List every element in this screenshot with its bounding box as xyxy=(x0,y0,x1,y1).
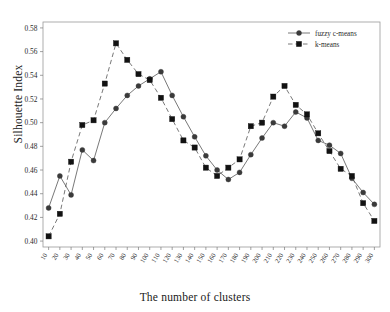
x-tick-label: 220 xyxy=(273,251,285,264)
data-point-k-means xyxy=(215,173,220,178)
x-tick-label: 10 xyxy=(39,251,49,261)
data-point-k-means xyxy=(293,102,298,107)
data-point-fuzzy-c-means xyxy=(372,202,377,207)
x-tick-label: 140 xyxy=(183,251,195,264)
data-point-fuzzy-c-means xyxy=(91,158,96,163)
data-point-k-means xyxy=(248,124,253,129)
data-point-k-means xyxy=(327,148,332,153)
data-point-fuzzy-c-means xyxy=(170,93,175,98)
y-tick-label: 0.46 xyxy=(25,166,38,175)
data-point-fuzzy-c-means xyxy=(361,190,366,195)
data-point-k-means xyxy=(237,157,242,162)
data-point-fuzzy-c-means xyxy=(125,93,130,98)
data-point-fuzzy-c-means xyxy=(57,173,62,178)
x-tick-label: 230 xyxy=(284,251,296,264)
data-point-k-means xyxy=(136,72,141,77)
x-tick-label: 170 xyxy=(217,251,229,264)
x-tick-label: 50 xyxy=(84,251,94,261)
y-tick-label: 0.42 xyxy=(25,213,38,222)
data-point-k-means xyxy=(57,211,62,216)
data-point-k-means xyxy=(361,201,366,206)
x-tick-label: 120 xyxy=(161,251,173,264)
y-axis-title: Silhouette Index xyxy=(12,34,24,174)
y-tick-label: 0.58 xyxy=(25,24,38,33)
data-point-fuzzy-c-means xyxy=(338,151,343,156)
data-point-k-means xyxy=(192,145,197,150)
y-tick-label: 0.48 xyxy=(25,142,38,151)
data-point-k-means xyxy=(68,159,73,164)
x-tick-label: 80 xyxy=(118,251,128,261)
data-point-k-means xyxy=(226,165,231,170)
x-tick-label: 90 xyxy=(129,251,139,261)
data-point-k-means xyxy=(271,94,276,99)
y-tick-label: 0.44 xyxy=(25,189,38,198)
data-point-k-means xyxy=(158,95,163,100)
x-tick-label: 250 xyxy=(307,251,319,264)
x-tick-label: 210 xyxy=(262,251,274,264)
data-point-fuzzy-c-means xyxy=(327,143,332,148)
y-tick-label: 0.40 xyxy=(25,237,38,246)
x-tick-label: 190 xyxy=(239,251,251,264)
x-tick-label: 100 xyxy=(138,251,150,264)
data-point-fuzzy-c-means xyxy=(158,69,163,74)
data-point-k-means xyxy=(349,173,354,178)
data-point-k-means xyxy=(316,131,321,136)
x-tick-label: 270 xyxy=(329,251,341,264)
data-point-k-means xyxy=(304,112,309,117)
y-tick-label: 0.50 xyxy=(25,118,38,127)
y-tick-label: 0.52 xyxy=(25,95,38,104)
x-tick-label: 200 xyxy=(251,251,263,264)
data-point-fuzzy-c-means xyxy=(114,106,119,111)
data-point-k-means xyxy=(102,81,107,86)
x-tick-label: 110 xyxy=(150,251,161,263)
data-point-fuzzy-c-means xyxy=(192,134,197,139)
x-tick-label: 20 xyxy=(50,251,60,261)
data-point-k-means xyxy=(181,138,186,143)
y-tick-label: 0.56 xyxy=(25,47,38,56)
data-point-fuzzy-c-means xyxy=(293,110,298,115)
x-tick-label: 30 xyxy=(62,251,72,261)
x-tick-label: 130 xyxy=(172,251,184,264)
data-point-k-means xyxy=(46,234,51,239)
x-tick-label: 150 xyxy=(195,251,207,264)
data-point-fuzzy-c-means xyxy=(102,120,107,125)
data-point-k-means xyxy=(372,218,377,223)
legend-label-0: fuzzy c-means xyxy=(315,30,357,38)
data-point-k-means xyxy=(170,117,175,122)
data-point-fuzzy-c-means xyxy=(316,138,321,143)
data-point-k-means xyxy=(338,166,343,171)
data-point-k-means xyxy=(259,120,264,125)
series-line-k-means xyxy=(49,43,375,236)
data-point-k-means xyxy=(91,118,96,123)
data-point-k-means xyxy=(125,57,130,62)
data-point-fuzzy-c-means xyxy=(237,170,242,175)
data-point-fuzzy-c-means xyxy=(248,152,253,157)
data-point-fuzzy-c-means xyxy=(181,114,186,119)
data-point-fuzzy-c-means xyxy=(271,120,276,125)
x-tick-label: 60 xyxy=(95,251,105,261)
data-point-fuzzy-c-means xyxy=(215,168,220,173)
data-point-fuzzy-c-means xyxy=(226,177,231,182)
legend-label-1: k-means xyxy=(315,41,340,49)
data-point-fuzzy-c-means xyxy=(80,147,85,152)
x-axis-title: The number of clusters xyxy=(0,291,390,303)
plot-frame xyxy=(43,22,380,247)
x-tick-label: 240 xyxy=(296,251,308,264)
data-point-k-means xyxy=(80,122,85,127)
plot-canvas: 0.400.420.440.460.480.500.520.540.560.58… xyxy=(0,0,390,312)
data-point-fuzzy-c-means xyxy=(282,124,287,129)
x-tick-label: 260 xyxy=(318,251,330,264)
data-point-k-means xyxy=(282,83,287,88)
x-tick-label: 180 xyxy=(228,251,240,264)
data-point-k-means xyxy=(113,41,118,46)
data-point-fuzzy-c-means xyxy=(203,153,208,158)
x-tick-label: 70 xyxy=(106,251,116,261)
x-tick-label: 290 xyxy=(352,251,364,264)
x-tick-label: 280 xyxy=(341,251,353,264)
legend-marker-1 xyxy=(296,41,301,46)
data-point-fuzzy-c-means xyxy=(136,83,141,88)
data-point-fuzzy-c-means xyxy=(260,136,265,141)
data-point-k-means xyxy=(203,165,208,170)
series-line-fuzzy-c-means xyxy=(49,72,375,208)
x-tick-label: 160 xyxy=(206,251,218,264)
